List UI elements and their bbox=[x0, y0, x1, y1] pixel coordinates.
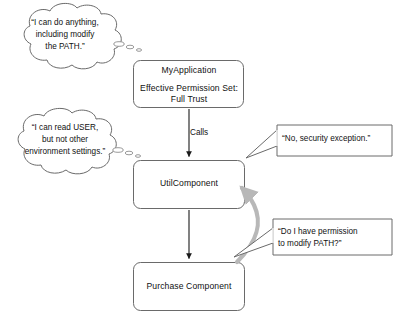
edge-calls-label: Calls bbox=[190, 128, 236, 138]
diagram-canvas: MyApplication Effective Permission Set: … bbox=[0, 0, 399, 321]
edge-permission-demand-arrow bbox=[237, 188, 258, 262]
node-myapplication-permission-set: Effective Permission Set: Full Trust bbox=[130, 83, 248, 104]
cloud-fulltrust-label: “I can do anything, including modify the… bbox=[14, 17, 116, 53]
cloud-limited-label: “I can read USER, but not other environm… bbox=[9, 122, 121, 158]
node-purchasecomponent-label: Purchase Component bbox=[134, 281, 244, 292]
callout-denied-label: “No, security exception.” bbox=[282, 133, 390, 145]
callout-ask-label: “Do I have permission to modify PATH?” bbox=[278, 226, 390, 250]
node-myapplication-label: MyApplication bbox=[134, 65, 244, 76]
node-utilcomponent-label: UtilComponent bbox=[134, 178, 244, 189]
